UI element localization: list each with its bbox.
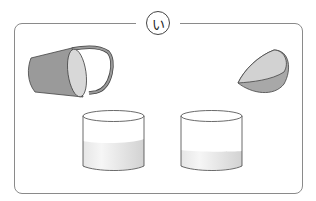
cup-icon bbox=[28, 47, 112, 98]
right-beaker-icon bbox=[181, 111, 242, 171]
illustration bbox=[0, 0, 316, 201]
bowl-icon bbox=[238, 50, 289, 93]
left-beaker-icon bbox=[83, 111, 144, 171]
